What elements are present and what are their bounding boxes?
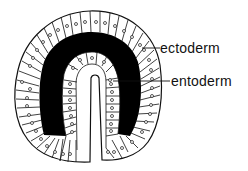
- label-entoderm: entoderm: [171, 74, 232, 88]
- label-ectoderm: ectoderm: [160, 41, 220, 55]
